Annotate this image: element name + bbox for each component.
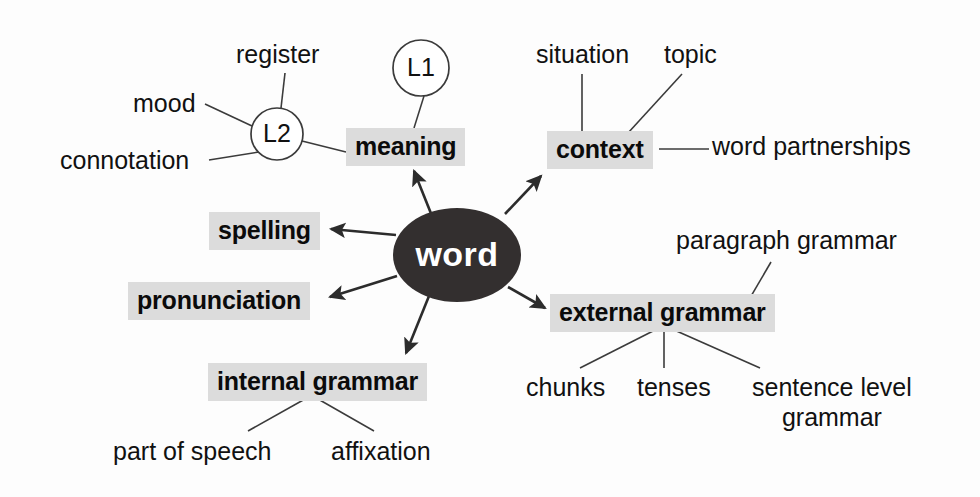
- paragraph-grammar-label: paragraph grammar: [676, 226, 897, 254]
- external-grammar-label: external grammar: [559, 298, 766, 326]
- node-word-hub[interactable]: word: [393, 208, 521, 302]
- sentence-level-grammar-label-line1: sentence level: [752, 373, 912, 403]
- edge-mood-to-l2: [205, 104, 252, 126]
- node-situation[interactable]: situation: [536, 40, 629, 70]
- l1-label: L1: [407, 53, 435, 81]
- node-mood[interactable]: mood: [133, 89, 196, 119]
- edge-register-to-l2: [281, 73, 285, 108]
- affixation-label: affixation: [331, 437, 431, 465]
- node-l2[interactable]: L2: [251, 108, 303, 160]
- word-hub-label: word: [414, 235, 498, 273]
- node-meaning[interactable]: meaning: [346, 128, 465, 166]
- internal-grammar-label: internal grammar: [217, 367, 418, 395]
- pronunciation-label: pronunciation: [137, 286, 301, 314]
- arrow-word-to-external-grammar: [508, 287, 545, 308]
- node-external-grammar[interactable]: external grammar: [550, 294, 775, 332]
- arrow-word-to-meaning: [414, 171, 432, 216]
- node-chunks[interactable]: chunks: [526, 373, 605, 403]
- node-sentence-level-grammar[interactable]: sentence level grammar: [752, 373, 912, 432]
- arrow-word-to-context: [505, 176, 541, 214]
- edge-l1-to-meaning: [414, 96, 424, 128]
- node-word-partnerships[interactable]: word partnerships: [712, 132, 911, 162]
- node-internal-grammar[interactable]: internal grammar: [208, 363, 427, 401]
- word-mind-map-diagram: L1 L2 word meaning context spelling pron…: [0, 0, 980, 497]
- edge-affixation-to-internal-grammar: [318, 399, 374, 431]
- node-spelling[interactable]: spelling: [209, 212, 320, 250]
- node-context[interactable]: context: [547, 131, 653, 169]
- spelling-label: spelling: [218, 216, 311, 244]
- node-affixation[interactable]: affixation: [331, 437, 431, 467]
- mood-label: mood: [133, 89, 196, 117]
- node-register[interactable]: register: [236, 40, 319, 70]
- sentence-level-grammar-label-line2: grammar: [752, 403, 912, 433]
- node-part-of-speech[interactable]: part of speech: [113, 437, 271, 467]
- topic-label: topic: [664, 40, 717, 68]
- edge-connotation-to-l2: [209, 152, 259, 160]
- node-topic[interactable]: topic: [664, 40, 717, 70]
- register-label: register: [236, 40, 319, 68]
- arrow-word-to-internal-grammar: [406, 296, 429, 353]
- edge-part-of-speech-to-internal-grammar: [248, 399, 305, 431]
- node-pronunciation[interactable]: pronunciation: [128, 282, 310, 320]
- arrow-word-to-pronunciation: [330, 276, 397, 297]
- node-connotation[interactable]: connotation: [60, 146, 189, 176]
- situation-label: situation: [536, 40, 629, 68]
- word-partnerships-label: word partnerships: [712, 132, 911, 160]
- part-of-speech-label: part of speech: [113, 437, 271, 465]
- edge-topic-to-context: [628, 74, 682, 133]
- node-tenses[interactable]: tenses: [637, 373, 711, 403]
- node-paragraph-grammar[interactable]: paragraph grammar: [676, 226, 897, 256]
- l2-label: L2: [263, 119, 291, 147]
- node-l1[interactable]: L1: [393, 40, 449, 96]
- context-label: context: [556, 135, 644, 163]
- meaning-label: meaning: [355, 132, 456, 160]
- connotation-label: connotation: [60, 146, 189, 174]
- tenses-label: tenses: [637, 373, 711, 401]
- edge-chunks-to-external-grammar: [580, 329, 657, 368]
- edge-sentence-level-grammar-to-external-grammar: [672, 329, 760, 368]
- chunks-label: chunks: [526, 373, 605, 401]
- edge-l2-to-meaning: [302, 141, 346, 152]
- arrow-word-to-spelling: [331, 229, 396, 235]
